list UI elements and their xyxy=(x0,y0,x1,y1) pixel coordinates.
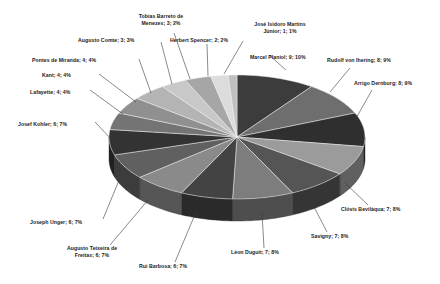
label-pontes-de-miranda: Pontes de Miranda; 4; 4% xyxy=(32,57,96,64)
leader-line xyxy=(103,178,120,219)
label-line-2: Júnior; 1; 1% xyxy=(243,28,317,35)
leader-line xyxy=(224,41,243,74)
label-arrigo-dernburg: Arrigo Dernburg; 8; 9% xyxy=(354,80,412,87)
leader-line xyxy=(207,44,208,76)
leader-line xyxy=(110,200,148,245)
leader-line xyxy=(345,183,368,205)
label-line-2: Freitas; 6; 7% xyxy=(52,252,132,259)
leader-line xyxy=(139,59,151,93)
label-tobias-barreto-de-menezes: Tobias Barreto de Menezes; 3; 2% xyxy=(124,13,198,27)
label-joseph-unger: Joseph Unger; 6; 7% xyxy=(30,219,82,226)
label-augusto-comte: Augusto Comte; 3; 3% xyxy=(78,37,134,44)
leader-line xyxy=(90,90,123,114)
pie-slices xyxy=(109,75,365,199)
pie-chart: Tobias Barreto de Menezes; 3; 2% Augusto… xyxy=(0,0,440,284)
label-marcel-planiol: Marcel Planiol; 9; 10% xyxy=(250,54,306,61)
label-josef-kohler: Josef Kohler; 6; 7% xyxy=(18,121,67,128)
label-savigny: Savigny; 7; 8% xyxy=(311,233,348,240)
label-line-1: Augusto Teixeira de xyxy=(52,245,132,252)
label-augusto-teixeira-de-freitas: Augusto Teixeira de Freitas; 6; 7% xyxy=(52,245,132,259)
label-rudolf-von-ihering: Rudolf von Ihering; 8; 9% xyxy=(327,57,391,64)
label-jose-isidoro-martins-junior: José Isidoro Martins Júnior; 1; 1% xyxy=(243,21,317,35)
leader-line xyxy=(161,42,172,84)
label-line-1: Tobias Barreto de xyxy=(124,13,198,20)
label-line-2: Menezes; 3; 2% xyxy=(124,20,198,27)
leader-line xyxy=(99,74,136,102)
leader-line xyxy=(312,203,327,232)
label-kant: Kant; 4; 4% xyxy=(42,72,71,79)
label-lafayette: Lafayette; 4; 4% xyxy=(30,89,70,96)
label-leon-duguit: Léon Duguit; 7; 8% xyxy=(231,249,279,256)
label-clovis-bevilaqua: Clóvis Beviláqua; 7; 8% xyxy=(341,206,400,213)
label-rui-barbosa: Rui Barbosa; 6; 7% xyxy=(139,263,187,270)
label-line-1: José Isidoro Martins xyxy=(243,21,317,28)
label-herbert-spencer: Herbert Spencer; 2; 2% xyxy=(170,37,228,44)
leader-line xyxy=(355,90,372,120)
leader-line xyxy=(330,68,350,92)
leader-line xyxy=(175,212,196,262)
